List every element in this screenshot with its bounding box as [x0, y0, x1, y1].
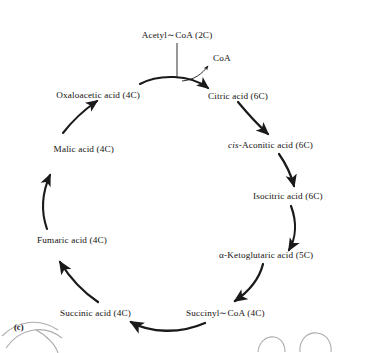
arrow-succinic-to-fumaric — [60, 262, 98, 302]
node-citric-acid: Citric acid (6C) — [208, 91, 268, 101]
arrow-malic-to-oxaloacetic — [63, 101, 97, 133]
arrow-citric-to-aconitic — [238, 102, 268, 134]
node-succinic-acid: Succinic acid (4C) — [60, 308, 131, 318]
aconitic-label: Aconitic acid (6C) — [242, 140, 313, 150]
arrow-oxaloacetic-to-citric — [140, 77, 208, 88]
node-fumaric-acid: Fumaric acid (4C) — [37, 235, 107, 245]
node-malic-acid: Malic acid (4C) — [54, 144, 114, 154]
cycle-arrows — [0, 0, 365, 353]
arrow-ketoglutaric-to-succinyl — [235, 264, 263, 301]
cis-prefix: cis- — [228, 140, 242, 150]
node-ketoglutaric-acid: α-Ketoglutaric acid (5C) — [219, 250, 313, 260]
arrow-aconitic-to-isocitric — [279, 154, 294, 186]
krebs-cycle-figure: Acetyl∼CoA (2C) CoA Oxaloacetic acid (4C… — [0, 0, 365, 353]
arrow-succinyl-to-succinic — [131, 322, 205, 331]
arrow-to-coa — [182, 66, 208, 81]
node-oxaloacetic-acid: Oxaloacetic acid (4C) — [56, 90, 140, 100]
node-coa: CoA — [213, 53, 231, 63]
arrow-fumaric-to-malic — [43, 175, 50, 229]
node-cis-aconitic-acid: cis-Aconitic acid (6C) — [228, 140, 313, 150]
panel-label-c: (c) — [14, 322, 24, 332]
page-edge-artifacts — [2, 322, 331, 353]
node-isocitric-acid: Isocitric acid (6C) — [253, 191, 323, 201]
node-acetyl-coa: Acetyl∼CoA (2C) — [142, 30, 213, 40]
arrow-isocitric-to-ketoglutaric — [289, 206, 295, 250]
node-succinyl-coa: Succinyl∼CoA (4C) — [186, 308, 265, 318]
